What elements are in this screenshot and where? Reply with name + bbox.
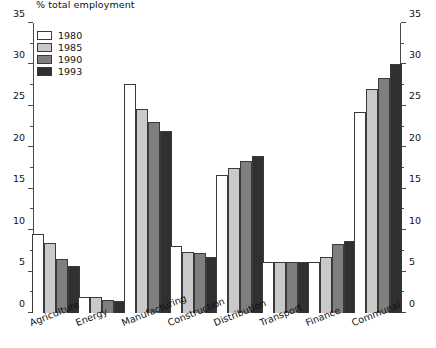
bar-group (170, 23, 218, 313)
legend-label: 1990 (58, 55, 82, 65)
y-tick-label: 35 (13, 9, 25, 19)
bar-group (124, 23, 172, 313)
y-tick-major (401, 63, 406, 64)
plot-area: 0055101015152020252530303535 (33, 23, 401, 313)
legend-label: 1993 (58, 67, 82, 77)
bar-group (216, 23, 264, 313)
bar (136, 109, 148, 313)
y-tick-label: 25 (13, 92, 25, 102)
bar (332, 244, 344, 313)
y-tick-label: 5 (409, 257, 415, 267)
bar (378, 78, 390, 313)
y-tick-label: 10 (13, 216, 25, 226)
legend-swatch-icon (37, 31, 52, 40)
y-tick-major (401, 22, 406, 23)
legend-item: 1985 (37, 43, 82, 53)
y-tick-major (401, 146, 406, 147)
y-tick-label: 30 (13, 50, 25, 60)
y-tick-major (401, 271, 406, 272)
y-tick-label: 0 (19, 299, 25, 309)
bar (228, 168, 240, 313)
bar (366, 89, 378, 313)
y-tick-label: 20 (13, 133, 25, 143)
legend-item: 1993 (37, 67, 82, 77)
bar (124, 84, 136, 313)
bar (320, 257, 332, 313)
y-tick-label: 25 (409, 92, 421, 102)
legend-label: 1985 (58, 43, 82, 53)
y-tick-label: 15 (409, 174, 421, 184)
legend-swatch-icon (37, 43, 52, 52)
y-tick-major (401, 105, 406, 106)
bar (240, 161, 252, 313)
legend-item: 1990 (37, 55, 82, 65)
y-tick-label: 15 (13, 174, 25, 184)
bar-group (78, 23, 126, 313)
chart-axis-title: % total employment (36, 0, 135, 10)
legend-swatch-icon (37, 67, 52, 76)
y-tick-label: 5 (19, 257, 25, 267)
y-tick-label: 20 (409, 133, 421, 143)
y-tick-major (401, 188, 406, 189)
bar-groups (33, 23, 401, 313)
legend-swatch-icon (37, 55, 52, 64)
bar (390, 64, 402, 313)
bar-group (354, 23, 402, 313)
bar (354, 112, 366, 313)
employment-bar-chart: % total employment 005510101515202025253… (0, 0, 436, 348)
bar (32, 234, 44, 313)
y-tick-major (401, 229, 406, 230)
legend-item: 1980 (37, 31, 82, 41)
legend-label: 1980 (58, 31, 82, 41)
bar (274, 262, 286, 313)
y-tick-label: 10 (409, 216, 421, 226)
chart-legend: 1980198519901993 (37, 31, 82, 77)
y-tick-label: 35 (409, 9, 421, 19)
bar-group (308, 23, 356, 313)
bar (78, 297, 90, 313)
bar (148, 122, 160, 313)
y-tick-major (401, 312, 406, 313)
bar (44, 243, 56, 313)
bar-group (262, 23, 310, 313)
y-tick-label: 0 (409, 299, 415, 309)
bar (216, 175, 228, 313)
bar (308, 262, 320, 313)
y-tick-label: 30 (409, 50, 421, 60)
